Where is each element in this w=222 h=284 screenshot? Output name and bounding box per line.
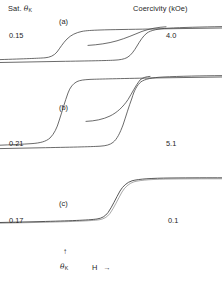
plot-svg-a: [0, 12, 222, 70]
plot-panel-a: [0, 12, 222, 70]
horizontal-axis-arrow-icon: →: [103, 263, 110, 272]
curve-c-second-branch: [0, 179, 222, 223]
kerr-hysteresis-figure: Sat. θK Coercivity (kOe) (a) 0.15 4.0: [0, 0, 222, 284]
panel-a-coercivity-value: 4.0: [166, 31, 176, 40]
vertical-axis-label: θK: [60, 262, 68, 271]
plot-svg-b: [0, 66, 222, 156]
horizontal-axis-label: H→: [92, 263, 111, 272]
panel-a-sat-kerr-value: 0.15: [9, 31, 23, 40]
curve-a-lower-branch: [0, 27, 222, 63]
field-symbol-axis: H: [92, 263, 97, 272]
panel-letter-c: (c): [59, 199, 68, 208]
curve-b-upper-branch: [0, 77, 222, 145]
theta-subscript-axis: K: [65, 265, 69, 271]
plot-panel-c: [0, 170, 222, 232]
panel-c-sat-kerr-value: 0.17: [9, 216, 23, 225]
curve-b-minor-recoil: [86, 76, 150, 121]
theta-symbol-axis: θ: [60, 262, 64, 271]
curve-c-main-branch: [0, 178, 222, 223]
plot-panel-b: [0, 66, 222, 156]
panel-b-coercivity-value: 5.1: [166, 139, 176, 148]
panel-b-sat-kerr-value: 0.21: [9, 139, 23, 148]
curve-b-lower-branch: [0, 76, 222, 149]
curve-a-upper-branch: [0, 28, 222, 60]
panel-c-coercivity-value: 0.1: [168, 216, 178, 225]
vertical-axis-arrow-icon: ↑: [63, 248, 67, 256]
panel-letter-b: (b): [59, 103, 68, 112]
plot-svg-c: [0, 170, 222, 232]
panel-letter-a: (a): [59, 17, 68, 26]
